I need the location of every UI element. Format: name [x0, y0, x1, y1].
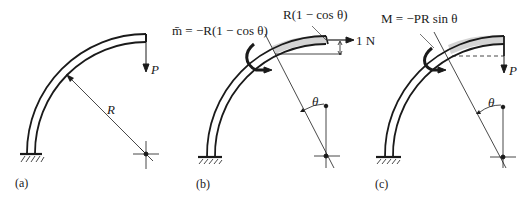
- load-label-c: P: [509, 64, 517, 77]
- angle-label-b: θ: [312, 95, 318, 108]
- panel-a: [20, 34, 159, 169]
- unit-load-label: 1 N: [356, 34, 375, 47]
- caption-a: (a): [15, 177, 28, 189]
- angle-label-c: θ: [488, 96, 494, 109]
- load-label-a: P: [151, 63, 159, 76]
- panel-b: [198, 26, 354, 168]
- moment-equation-b: m̄ = −R(1 − cos θ): [172, 24, 268, 37]
- offset-label: R(1 − cos θ): [283, 8, 347, 21]
- panel-c: [376, 32, 516, 168]
- moment-equation-c: M = −PR sin θ: [381, 12, 458, 25]
- caption-c: (c): [375, 178, 388, 190]
- radius-label: R: [107, 103, 115, 116]
- caption-b: (b): [196, 178, 210, 190]
